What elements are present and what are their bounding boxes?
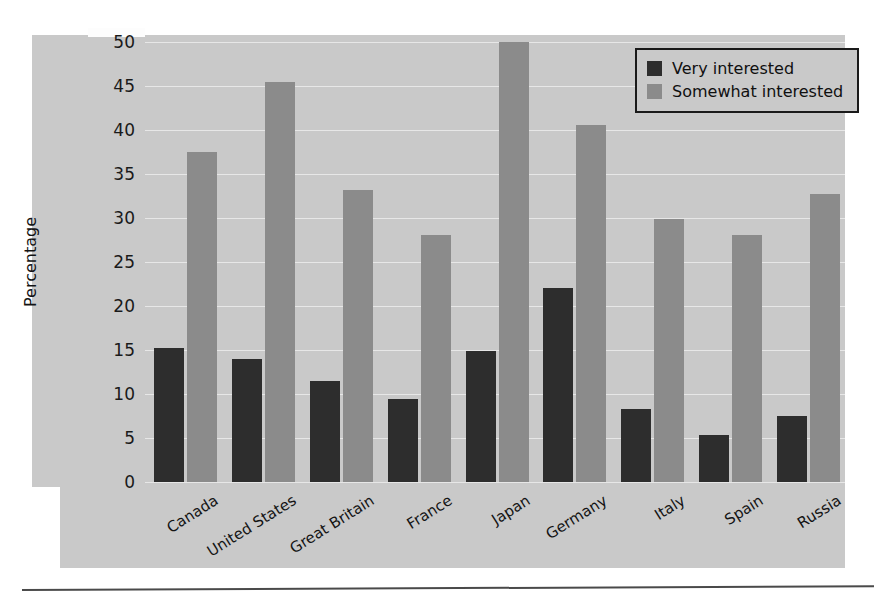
y-tick-label: 10 — [113, 386, 135, 403]
bar-somewhat-interested — [187, 152, 217, 482]
legend-swatch-very-interested — [647, 61, 662, 76]
bar-somewhat-interested — [810, 194, 840, 482]
bar-somewhat-interested — [421, 235, 451, 482]
bar-somewhat-interested — [654, 219, 684, 482]
y-tick-label: 25 — [113, 254, 135, 271]
y-tick-label: 30 — [113, 210, 135, 227]
bar-group — [232, 42, 295, 482]
gridline — [145, 482, 845, 483]
bar-group — [543, 42, 606, 482]
bar-very-interested — [310, 381, 340, 482]
bar-somewhat-interested — [576, 125, 606, 482]
bar-very-interested — [388, 399, 418, 482]
bar-very-interested — [543, 288, 573, 482]
bar-group — [154, 42, 217, 482]
bar-very-interested — [621, 409, 651, 482]
y-tick-label: 45 — [113, 78, 135, 95]
bar-very-interested — [466, 351, 496, 482]
panel-left-step — [32, 487, 60, 568]
bar-somewhat-interested — [265, 82, 295, 482]
chart-legend: Very interested Somewhat interested — [635, 48, 859, 113]
y-tick-label: 40 — [113, 122, 135, 139]
bar-very-interested — [699, 435, 729, 482]
bar-very-interested — [154, 348, 184, 482]
legend-label: Very interested — [672, 59, 794, 78]
y-tick-label: 15 — [113, 342, 135, 359]
bar-very-interested — [232, 359, 262, 482]
bar-somewhat-interested — [732, 235, 762, 482]
y-tick-label: 5 — [124, 430, 135, 447]
legend-swatch-somewhat-interested — [647, 84, 662, 99]
legend-label: Somewhat interested — [672, 82, 843, 101]
bar-somewhat-interested — [499, 42, 529, 482]
y-tick-label: 0 — [124, 474, 135, 491]
bar-group — [466, 42, 529, 482]
legend-item: Somewhat interested — [647, 80, 843, 103]
y-tick-label: 20 — [113, 298, 135, 315]
bar-group — [388, 42, 451, 482]
y-tick-label: 50 — [113, 34, 135, 51]
legend-item: Very interested — [647, 57, 843, 80]
bar-very-interested — [777, 416, 807, 482]
y-axis-title: Percentage — [21, 217, 40, 307]
bottom-horizontal-rule — [22, 585, 874, 591]
chart-figure: Percentage 05101520253035404550 CanadaUn… — [0, 0, 877, 606]
bar-group — [310, 42, 373, 482]
bar-somewhat-interested — [343, 190, 373, 482]
y-tick-label: 35 — [113, 166, 135, 183]
